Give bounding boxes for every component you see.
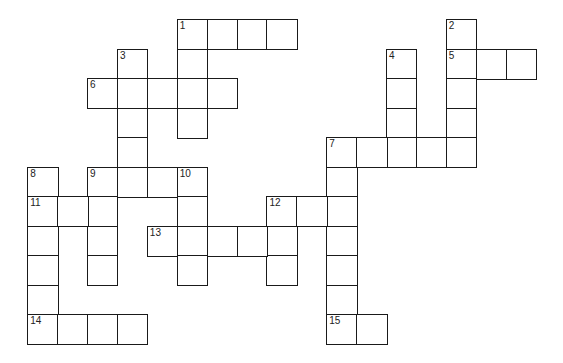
crossword-cell[interactable]: 4 [386, 49, 417, 80]
crossword-cell[interactable] [237, 226, 268, 257]
crossword-cell[interactable] [326, 196, 357, 227]
crossword-cell[interactable] [506, 49, 537, 80]
crossword-cell[interactable]: 1 [177, 19, 208, 50]
clue-number: 5 [449, 51, 455, 61]
crossword-cell[interactable] [386, 108, 417, 139]
crossword-cell[interactable]: 2 [446, 19, 477, 50]
crossword-cell[interactable] [57, 314, 88, 345]
crossword-cell[interactable] [326, 285, 357, 316]
crossword-cell[interactable]: 13 [147, 226, 178, 257]
clue-number: 7 [329, 139, 335, 149]
clue-number: 15 [329, 316, 340, 326]
crossword-cell[interactable] [177, 226, 208, 257]
clue-number: 2 [449, 21, 455, 31]
crossword-cell[interactable] [117, 314, 148, 345]
crossword-cell[interactable] [87, 314, 118, 345]
crossword-cell[interactable] [266, 255, 297, 286]
crossword-cell[interactable] [266, 19, 297, 50]
crossword-cell[interactable] [446, 108, 477, 139]
crossword-cell[interactable] [27, 255, 58, 286]
clue-number: 10 [180, 169, 191, 179]
crossword-cell[interactable] [266, 226, 297, 257]
crossword-cell[interactable] [296, 196, 327, 227]
crossword-cell[interactable]: 11 [27, 196, 58, 227]
crossword-cell[interactable]: 14 [27, 314, 58, 345]
crossword-cell[interactable]: 10 [177, 167, 208, 198]
crossword-cell[interactable] [117, 167, 148, 198]
crossword-cell[interactable] [177, 49, 208, 80]
crossword-cell[interactable] [177, 196, 208, 227]
clue-number: 11 [30, 198, 40, 208]
crossword-cell[interactable] [326, 255, 357, 286]
crossword-cell[interactable]: 12 [266, 196, 297, 227]
crossword-cell[interactable]: 15 [326, 314, 357, 345]
crossword-cell[interactable] [117, 78, 148, 109]
clue-number: 6 [90, 80, 96, 90]
crossword-grid: 125346715811149101213 [0, 0, 563, 363]
crossword-cell[interactable] [177, 78, 208, 109]
crossword-cell[interactable] [177, 108, 208, 139]
crossword-cell[interactable] [386, 137, 417, 168]
crossword-cell[interactable] [177, 255, 208, 286]
crossword-cell[interactable]: 3 [117, 49, 148, 80]
crossword-cell[interactable]: 9 [87, 167, 118, 198]
crossword-cell[interactable] [356, 137, 387, 168]
crossword-cell[interactable] [446, 78, 477, 109]
clue-number: 4 [389, 51, 395, 61]
clue-number: 1 [180, 21, 186, 31]
crossword-cell[interactable] [87, 255, 118, 286]
crossword-cell[interactable]: 8 [27, 167, 58, 198]
crossword-cell[interactable] [326, 226, 357, 257]
crossword-cell[interactable] [207, 78, 238, 109]
clue-number: 8 [30, 169, 36, 179]
crossword-cell[interactable] [326, 167, 357, 198]
crossword-cell[interactable] [207, 226, 238, 257]
crossword-cell[interactable] [27, 226, 58, 257]
crossword-cell[interactable] [386, 78, 417, 109]
crossword-cell[interactable]: 6 [87, 78, 118, 109]
crossword-cell[interactable] [27, 285, 58, 316]
clue-number: 3 [120, 51, 126, 61]
crossword-cell[interactable] [356, 314, 387, 345]
crossword-cell[interactable] [416, 137, 447, 168]
crossword-cell[interactable] [476, 49, 507, 80]
crossword-cell[interactable] [147, 167, 178, 198]
crossword-cell[interactable] [87, 226, 118, 257]
crossword-cell[interactable] [87, 196, 118, 227]
crossword-cell[interactable] [207, 19, 238, 50]
clue-number: 14 [30, 316, 41, 326]
crossword-cell[interactable]: 5 [446, 49, 477, 80]
crossword-cell[interactable]: 7 [326, 137, 357, 168]
clue-number: 12 [269, 198, 280, 208]
crossword-cell[interactable] [147, 78, 178, 109]
crossword-cell[interactable] [57, 196, 88, 227]
clue-number: 13 [150, 228, 161, 238]
clue-number: 9 [90, 169, 96, 179]
crossword-cell[interactable] [117, 108, 148, 139]
crossword-cell[interactable] [237, 19, 268, 50]
crossword-cell[interactable] [117, 137, 148, 168]
crossword-cell[interactable] [446, 137, 477, 168]
